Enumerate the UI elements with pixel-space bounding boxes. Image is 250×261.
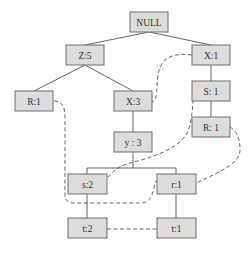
edge-y3-r1 — [133, 168, 176, 174]
node-label: t:1 — [171, 224, 181, 234]
edge-null-x1 — [149, 32, 211, 45]
node-null: NULL — [130, 12, 168, 32]
node-label: NULL — [136, 18, 162, 28]
edge-z5-x3 — [85, 65, 133, 91]
node-t1: t:1 — [157, 218, 196, 238]
node-r1-left: R:1 — [15, 91, 53, 111]
node-label: y : 3 — [125, 138, 142, 148]
node-x3: X:3 — [114, 91, 152, 111]
node-y3: y : 3 — [114, 132, 152, 152]
edge-y3-s2 — [87, 152, 133, 174]
node-x1: X:1 — [192, 45, 230, 65]
node-label: r:1 — [171, 180, 182, 190]
node-label: Z:5 — [78, 51, 91, 61]
node-label: X:1 — [204, 51, 219, 61]
node-s2: s:2 — [68, 174, 107, 194]
node-r1-lower: r:1 — [157, 174, 196, 194]
node-label: X:3 — [126, 97, 141, 107]
link-x1-x3 — [152, 54, 192, 102]
fp-tree-diagram: NULL Z:5 X:1 R:1 X:3 S: 1 R: 1 y : 3 s:2… — [0, 0, 250, 261]
node-s1: S: 1 — [192, 81, 230, 101]
node-r1-right: R: 1 — [192, 117, 230, 137]
edge-z5-r1 — [34, 65, 85, 91]
node-z5: Z:5 — [66, 45, 104, 65]
node-label: R:1 — [27, 97, 41, 107]
edge-null-z5 — [85, 32, 149, 45]
node-label: S: 1 — [203, 87, 218, 97]
node-t2: t:2 — [68, 218, 107, 238]
node-label: R: 1 — [203, 123, 219, 133]
node-label: t:2 — [82, 224, 92, 234]
node-label: s:2 — [82, 180, 93, 190]
